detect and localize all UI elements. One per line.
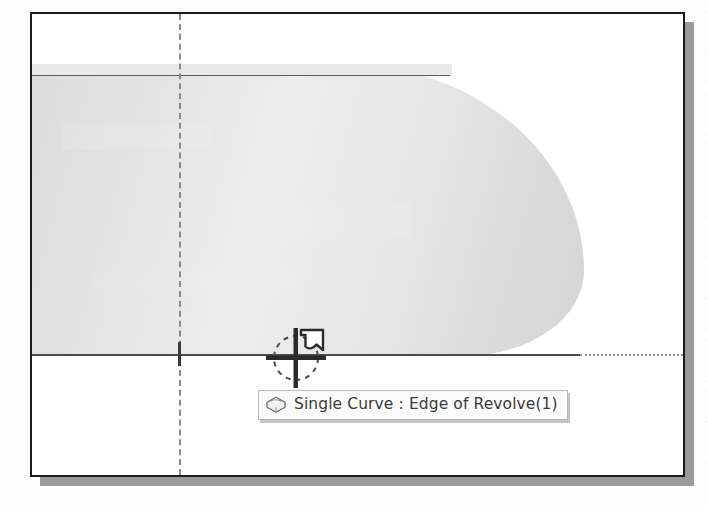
screenshot-page: Single Curve : Edge of Revolve(1): [0, 0, 708, 506]
entity-tooltip: Single Curve : Edge of Revolve(1): [258, 390, 568, 420]
axis-origin-tick: [178, 342, 181, 366]
baseline-edge-dotted: [580, 354, 683, 356]
revolve-axis-dashed: [179, 14, 181, 475]
single-curve-icon: [265, 395, 287, 415]
curve-select-crosshair: [260, 322, 332, 394]
top-silhouette-edge[interactable]: [32, 75, 450, 76]
entity-tooltip-label: Single Curve : Edge of Revolve(1): [294, 397, 558, 413]
revolved-solid-body[interactable]: [32, 64, 584, 356]
